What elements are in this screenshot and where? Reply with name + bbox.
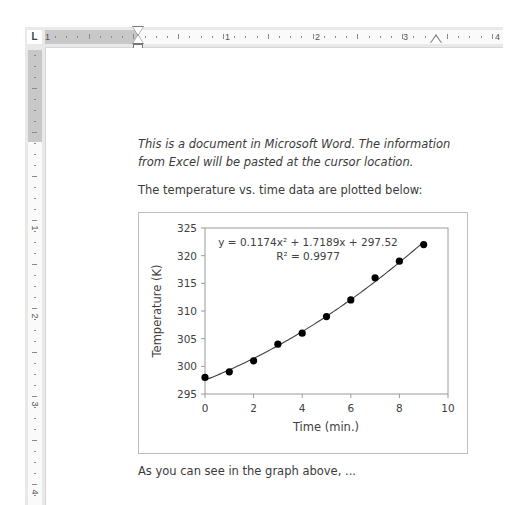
ruler-left-margin xyxy=(45,30,138,44)
ruler-tick xyxy=(335,36,336,38)
ruler-tick xyxy=(34,253,36,254)
ruler-tick xyxy=(458,36,459,38)
x-tick-label: 6 xyxy=(347,402,354,414)
data-points xyxy=(201,241,427,381)
ruler-tick xyxy=(32,220,37,221)
trendline-equation: y = 0.1174x² + 1.7189x + 297.52 xyxy=(218,236,398,248)
ruler-tick xyxy=(32,396,37,397)
polynomial-trendline xyxy=(205,242,424,380)
ruler-tick xyxy=(391,36,392,38)
ruler-tick xyxy=(34,275,36,276)
ruler-tick xyxy=(34,286,36,287)
ruler-tick xyxy=(32,88,37,89)
ruler-tick xyxy=(145,36,146,38)
ruler-tick xyxy=(34,385,36,386)
ruler-tick xyxy=(413,36,414,38)
ruler-tick xyxy=(32,308,37,309)
y-tick-label: 320 xyxy=(177,250,197,262)
right-indent-marker[interactable] xyxy=(431,36,441,43)
ruler-tick xyxy=(77,36,78,38)
ruler-tick xyxy=(34,330,36,331)
ruler-tick xyxy=(268,34,269,39)
ruler-tick xyxy=(290,36,291,38)
ruler-tick xyxy=(34,242,36,243)
r-squared-label: R² = 0.9977 xyxy=(276,250,340,262)
ruler-tick xyxy=(380,36,381,38)
x-tick-label: 10 xyxy=(441,402,454,414)
tab-selector-button[interactable]: L xyxy=(27,30,42,44)
ruler-text-area xyxy=(138,30,503,44)
ruler-tick xyxy=(32,264,37,265)
ruler-tick xyxy=(346,36,347,38)
ruler-tick xyxy=(32,484,37,485)
ruler-tick xyxy=(34,341,36,342)
ruler-number: 1 xyxy=(45,30,50,44)
ruler-number: 2 xyxy=(315,30,320,44)
y-tick-label: 325 xyxy=(177,222,197,234)
y-axis-title: Temperature (K) xyxy=(150,264,164,358)
ruler-tick xyxy=(257,36,258,38)
ruler-tick xyxy=(178,34,179,39)
ruler-top-margin xyxy=(28,50,42,142)
ruler-tick xyxy=(34,55,36,56)
ruler-number: 3 xyxy=(403,30,408,44)
horizontal-ruler[interactable]: L 1 1 2 3 4 xyxy=(25,27,503,48)
x-axis-title: Time (min.) xyxy=(292,420,359,434)
ruler-tick xyxy=(34,418,36,419)
ruler-tick xyxy=(201,36,202,38)
ruler-tick xyxy=(34,374,36,375)
ruler-tick xyxy=(189,36,190,38)
y-tick-label: 295 xyxy=(177,388,197,400)
data-point xyxy=(420,241,427,248)
y-tick-label: 310 xyxy=(177,305,197,317)
ruler-tick xyxy=(301,36,302,38)
intro-paragraph-line-1: This is a document in Microsoft Word. Th… xyxy=(138,137,450,151)
ruler-tick xyxy=(66,36,67,38)
x-tick-label: 4 xyxy=(299,402,306,414)
data-point xyxy=(396,258,403,265)
ruler-tick xyxy=(32,132,37,133)
ruler-tick xyxy=(32,352,37,353)
y-tick-label: 315 xyxy=(177,277,197,289)
ruler-tick xyxy=(167,36,168,38)
ruler-tick xyxy=(34,462,36,463)
ruler-tick xyxy=(34,363,36,364)
ruler-tick xyxy=(34,495,36,496)
vertical-ruler[interactable]: 1 2 3 4 xyxy=(25,47,46,505)
ruler-tick xyxy=(245,36,246,38)
ruler-tick xyxy=(34,209,36,210)
ruler-number: 4 xyxy=(495,30,500,44)
ruler-tick xyxy=(34,231,36,232)
hanging-indent-marker[interactable] xyxy=(133,35,143,43)
ruler-tick xyxy=(34,429,36,430)
ruler-tick xyxy=(279,36,280,38)
intro-paragraph-line-2: from Excel will be pasted at the cursor … xyxy=(138,155,413,169)
ruler-tick xyxy=(34,143,36,144)
x-tick-label: 8 xyxy=(396,402,403,414)
ruler-tick xyxy=(34,121,36,122)
x-tick-label: 0 xyxy=(202,402,209,414)
ruler-tick xyxy=(324,36,325,38)
ruler-tick xyxy=(32,440,37,441)
ruler-tick xyxy=(234,36,235,38)
scatter-chart: 295300305310315320325 0246810 y = 0.1174… xyxy=(139,213,467,453)
embedded-excel-chart[interactable]: 295300305310315320325 0246810 y = 0.1174… xyxy=(138,212,468,454)
data-point xyxy=(250,357,257,364)
ruler-tick xyxy=(34,110,36,111)
ruler-tick xyxy=(34,77,36,78)
ruler-tick xyxy=(34,297,36,298)
data-point xyxy=(226,368,233,375)
ruler-tick xyxy=(357,34,358,39)
data-point xyxy=(347,296,354,303)
chart-intro-paragraph: The temperature vs. time data are plotte… xyxy=(138,183,422,197)
data-point xyxy=(274,341,281,348)
ruler-tick xyxy=(89,34,90,39)
ruler-tick xyxy=(492,34,493,39)
ruler-tick xyxy=(100,36,101,38)
ruler-tick xyxy=(156,36,157,38)
ruler-number: 1 xyxy=(225,30,230,44)
ruler-tick xyxy=(34,66,36,67)
ruler-tick xyxy=(369,36,370,38)
y-tick-label: 305 xyxy=(177,333,197,345)
closing-paragraph: As you can see in the graph above, ... xyxy=(138,464,356,478)
